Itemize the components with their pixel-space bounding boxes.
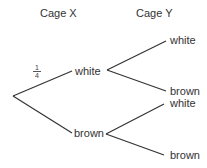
branch-brown-to-white (106, 104, 164, 134)
node-y-brown-from-brown: brown (170, 149, 200, 161)
node-y-white-from-brown: white (170, 97, 196, 109)
branch-brown-to-brown (106, 134, 164, 155)
header-cage-y: Cage Y (136, 7, 173, 19)
tree-branches (0, 0, 207, 168)
branch-white-to-brown (107, 70, 166, 91)
branch-white-to-white (107, 41, 166, 70)
branch-root-to-brown (13, 96, 72, 133)
branch-root-to-white (13, 71, 72, 96)
node-x-white: white (75, 65, 101, 77)
probability-root-white: 1 4 (33, 64, 41, 79)
fraction-numerator: 1 (33, 64, 41, 72)
node-y-brown-from-white: brown (170, 85, 200, 97)
node-x-brown: brown (74, 127, 104, 139)
header-cage-x: Cage X (40, 7, 77, 19)
fraction-denominator: 4 (33, 72, 41, 79)
node-y-white-from-white: white (170, 34, 196, 46)
probability-tree-diagram: Cage X Cage Y 1 4 white brown white brow… (0, 0, 207, 168)
